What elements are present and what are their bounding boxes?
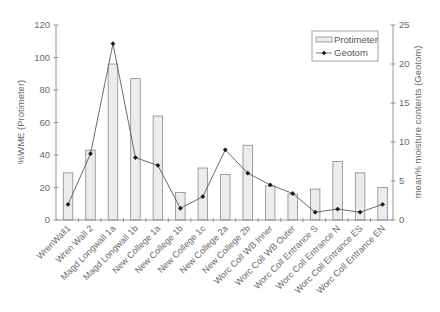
left-tick-label: 120 [34, 19, 50, 30]
dual-axis-chart: 020406080100120 0510152025 WrenWall1Wren… [0, 0, 440, 312]
bar [108, 64, 118, 220]
bar [310, 189, 320, 220]
protimeter-bars [63, 64, 387, 220]
left-tick-label: 100 [34, 52, 50, 63]
bar [131, 79, 141, 220]
right-tick-label: 20 [399, 58, 410, 69]
bar [153, 116, 163, 220]
bar [221, 175, 231, 221]
right-tick-label: 15 [399, 97, 410, 108]
diamond-marker-icon [111, 41, 116, 46]
left-tick-label: 0 [45, 214, 50, 225]
left-tick-label: 20 [39, 182, 50, 193]
right-axis-title: mean% moisture contents (Geotom) [412, 46, 423, 199]
legend-bar-swatch-icon [316, 37, 332, 42]
left-tick-label: 80 [39, 84, 50, 95]
category-labels: WrenWall1Wren Wall 2Magd Longwall 1aMagd… [35, 223, 387, 296]
left-axis-title: %WME (Protimeter) [15, 80, 26, 164]
right-tick-label: 10 [399, 136, 410, 147]
right-tick-label: 5 [399, 175, 404, 186]
bar [198, 168, 208, 220]
right-tick-label: 25 [399, 19, 410, 30]
legend-protimeter-label: Protimeter [334, 34, 378, 45]
bar [288, 194, 298, 220]
bar [243, 145, 253, 220]
bar [265, 186, 275, 220]
legend-geotom-label: Geotom [334, 47, 368, 58]
legend: Protimeter Geotom [312, 31, 378, 61]
left-tick-label: 60 [39, 117, 50, 128]
left-axis-ticks: 020406080100120 [34, 19, 58, 225]
right-tick-label: 0 [399, 214, 404, 225]
left-tick-label: 40 [39, 149, 50, 160]
